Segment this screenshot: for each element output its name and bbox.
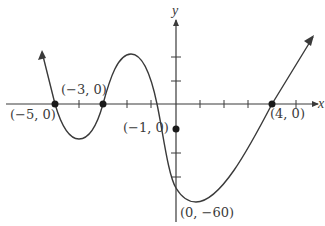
point-label-4: (4, 0) xyxy=(270,107,305,120)
x-axis-label: x xyxy=(318,97,324,111)
point-label-neg1: (−1, 0) xyxy=(123,121,169,134)
right-arrow-icon xyxy=(304,35,314,46)
point-label-0-neg60: (0, −60) xyxy=(180,206,234,219)
point-label-neg3: (−3, 0) xyxy=(61,83,107,96)
left-arrow-icon xyxy=(38,50,46,60)
point-neg3 xyxy=(100,101,107,108)
y-axis-label: y xyxy=(172,4,178,18)
point-label-neg5: (−5, 0) xyxy=(10,108,56,121)
point-yaxis xyxy=(173,126,180,133)
